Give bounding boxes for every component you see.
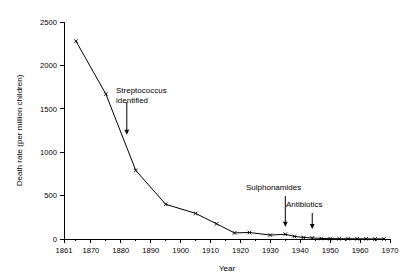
data-series-group xyxy=(74,39,386,240)
x-axis-ticks: 1861187018801890190019101920193019401950… xyxy=(56,239,399,255)
data-point-marker xyxy=(74,39,78,43)
annotations-group: StreptococcusidentifiedSulphonamidesAnti… xyxy=(116,86,322,229)
y-tick-label: 2500 xyxy=(40,18,57,27)
annotation-label: Sulphonamides xyxy=(246,183,301,192)
x-axis-title: Year xyxy=(219,264,236,273)
y-tick-label: 1500 xyxy=(40,105,57,114)
annotation-arrowhead xyxy=(283,222,288,227)
y-tick-label: 2000 xyxy=(40,61,57,70)
x-tick-label: 1870 xyxy=(82,246,99,255)
x-tick-label: 1960 xyxy=(352,246,369,255)
x-tick-label: 1930 xyxy=(262,246,279,255)
y-axis-ticks: 05001000150020002500 xyxy=(40,18,64,244)
x-tick-label: 1861 xyxy=(56,246,73,255)
annotation-label: Antibiotics xyxy=(286,200,322,209)
annotation-arrowhead xyxy=(310,224,315,229)
axes-group xyxy=(64,22,390,239)
y-axis-title: Death rate (per million children) xyxy=(15,74,24,186)
y-tick-label: 0 xyxy=(53,235,57,244)
y-tick-label: 500 xyxy=(44,191,57,200)
x-tick-label: 1900 xyxy=(172,246,189,255)
y-tick-label: 1000 xyxy=(40,148,57,157)
annotation-arrowhead xyxy=(124,130,129,135)
x-tick-label: 1890 xyxy=(142,246,159,255)
x-tick-label: 1940 xyxy=(292,246,309,255)
line-chart: 05001000150020002500 1861187018801890190… xyxy=(0,0,412,278)
annotation-label: Streptococcusidentified xyxy=(116,86,167,105)
x-tick-label: 1970 xyxy=(382,246,399,255)
data-line xyxy=(76,41,384,239)
x-tick-label: 1880 xyxy=(112,246,129,255)
chart-container: 05001000150020002500 1861187018801890190… xyxy=(0,0,412,278)
x-tick-label: 1950 xyxy=(322,246,339,255)
data-point-marker xyxy=(215,222,219,226)
x-tick-label: 1910 xyxy=(202,246,219,255)
x-tick-label: 1920 xyxy=(232,246,249,255)
